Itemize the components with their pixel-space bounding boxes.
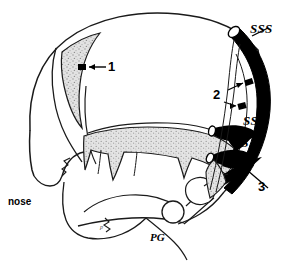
diploe-divider-a <box>98 150 101 174</box>
diploe-divider-b <box>134 152 137 176</box>
frontal-facial-border <box>30 130 34 176</box>
leader-arrow-1 <box>89 64 95 70</box>
marker-2-lower <box>237 102 246 110</box>
label-small-mark: p <box>100 224 103 230</box>
pituitary-gland-circle <box>162 201 184 223</box>
label-pg: PG <box>150 232 165 243</box>
frontal-diploe-wedge <box>61 33 100 128</box>
skull-drawing <box>0 0 294 265</box>
label-nose: nose <box>8 197 31 207</box>
marker-1 <box>78 64 86 70</box>
label-1: 1 <box>108 60 115 73</box>
marker-3 <box>238 161 246 167</box>
maxilla-body <box>63 182 146 239</box>
leader-arrow-2-upper <box>236 83 243 88</box>
label-2: 2 <box>213 88 220 101</box>
label-ts: TS <box>233 136 249 149</box>
label-3: 3 <box>258 180 265 193</box>
leader-arrow-2-lower <box>230 103 236 109</box>
nasal-cavity-outline <box>34 176 62 186</box>
label-ss: SS <box>243 114 258 127</box>
label-sss: SSS <box>250 22 273 35</box>
sagittal-skull-diagram: SSS SS TS 1 2 3 nose PG p <box>0 0 294 265</box>
